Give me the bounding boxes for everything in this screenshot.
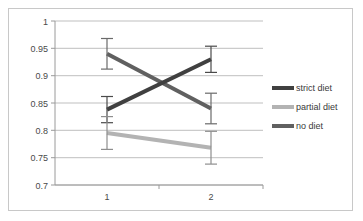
y-tick-label: 0.85 xyxy=(30,99,48,109)
y-tick-label: 0.9 xyxy=(35,71,48,81)
series-partial-diet xyxy=(101,117,217,165)
x-tick-labels: 1 2 xyxy=(104,192,213,202)
chart-root: 1 0.95 0.9 0.85 0.8 0.75 0.7 1 2 xyxy=(0,0,363,221)
y-tick-label: 0.95 xyxy=(30,44,48,54)
x-tick-label: 1 xyxy=(104,192,109,202)
y-tick-label: 0.75 xyxy=(30,153,48,163)
series-no-diet xyxy=(101,39,217,124)
y-tick-marks xyxy=(51,21,55,185)
y-tick-labels: 1 0.95 0.9 0.85 0.8 0.75 0.7 xyxy=(30,17,48,191)
legend-swatch-icon xyxy=(272,86,294,90)
y-tick-label: 0.7 xyxy=(35,181,48,191)
legend-swatch-icon xyxy=(272,124,294,128)
y-tick-label: 0.8 xyxy=(35,126,48,136)
series-line-partial-diet xyxy=(107,133,211,148)
legend-item-strict-diet[interactable]: strict diet xyxy=(272,83,333,93)
gridlines xyxy=(55,21,263,185)
line-chart-plot: 1 0.95 0.9 0.85 0.8 0.75 0.7 1 2 xyxy=(0,0,363,221)
legend-item-label: partial diet xyxy=(296,102,338,112)
legend-item-label: strict diet xyxy=(296,83,333,93)
x-tick-label: 2 xyxy=(208,192,213,202)
chart-legend: strict diet partial diet no diet xyxy=(272,83,338,131)
legend-item-label: no diet xyxy=(296,121,324,131)
legend-item-partial-diet[interactable]: partial diet xyxy=(272,102,338,112)
legend-swatch-icon xyxy=(272,105,294,109)
x-tick-marks xyxy=(159,185,263,189)
legend-item-no-diet[interactable]: no diet xyxy=(272,121,324,131)
y-tick-label: 1 xyxy=(43,17,48,27)
